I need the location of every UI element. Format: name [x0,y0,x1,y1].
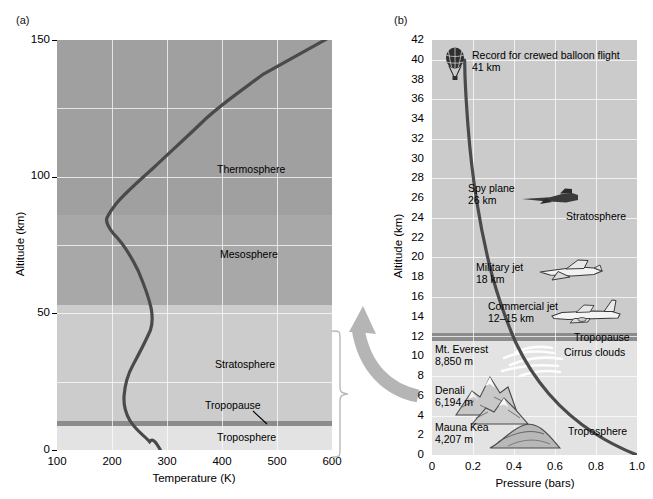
balloon-record-callout: Record for crewed balloon flight 41 km [472,50,620,73]
panel-b-xtick-0.8: 0.8 [576,460,616,472]
mountain-icon [488,412,562,452]
panel-b-plot-area: Record for crewed balloon flight 41 km S… [432,40,637,455]
mauna-kea-callout: Mauna Kea 4,207 m [435,422,489,445]
panel-b-ytick-12: 12 [400,330,424,342]
panel-b-ytick-22: 22 [400,231,424,243]
denali-line2: 6,194 m [435,396,473,408]
spy-plane-line2: 26 km [468,194,497,206]
panel-b-ytick-30: 30 [400,152,424,164]
military-jet-callout: Military jet 18 km [476,262,523,285]
panel-b-ytick-42: 42 [400,33,424,45]
panel-b-ytick-20: 20 [400,250,424,262]
panel-b-ytick-2: 2 [400,428,424,440]
label-b-troposphere: Troposphere [568,425,627,437]
label-b-tropopause: Tropopause [574,331,630,343]
panel-b-ytick-26: 26 [400,191,424,203]
panel-b-ytick-34: 34 [400,112,424,124]
mt-everest-line1: Mt. Everest [435,343,488,355]
mt-everest-callout: Mt. Everest 8,850 m [435,344,488,367]
panel-b-xtick-0.2: 0.2 [453,460,493,472]
mauna-kea-line1: Mauna Kea [435,421,489,433]
panel-a-ytick-50: 50 [10,306,50,318]
panel-b-label: (b) [394,14,407,26]
military-jet-line2: 18 km [476,273,505,285]
denali-callout: Denali 6,194 m [435,385,473,408]
mauna-kea-line2: 4,207 m [435,433,473,445]
panel-b-ytick-24: 24 [400,211,424,223]
panel-a-xtick-500: 500 [257,455,297,467]
panel-b-ytick-4: 4 [400,409,424,421]
balloon-icon [444,47,466,81]
balloon-record-line1: Record for crewed balloon flight [472,49,620,61]
military-jet-icon [536,258,606,284]
spy-plane-icon [520,188,582,208]
denali-line1: Denali [435,384,465,396]
panel-b-ytick-14: 14 [400,310,424,322]
panel-a-plot-area: Thermosphere Mesosphere Stratosphere Tro… [57,40,332,450]
panel-b-ytick-10: 10 [400,349,424,361]
panel-b-x-axis-title: Pressure (bars) [455,477,615,489]
panel-b-xtick-1.0: 1.0 [617,460,653,472]
panel-b-ytick-16: 16 [400,290,424,302]
panel-a-ytickmark [52,450,57,451]
panel-b-xtick-0.4: 0.4 [494,460,534,472]
balloon-record-line2: 41 km [472,61,501,73]
atmosphere-figure: (a) Altitude (km) 150 100 50 0 Thermosph [0,0,653,499]
military-jet-line1: Military jet [476,261,523,273]
panel-b-xtick-0: 0 [412,460,452,472]
panel-b-ytick-28: 28 [400,171,424,183]
panel-a-ytick-150: 150 [10,33,50,45]
commercial-jet-icon [548,298,624,326]
panel-b-ytick-6: 6 [400,389,424,401]
panel-a-y-axis-title: Altitude (km) [14,199,26,289]
panel-a-xtick-100: 100 [37,455,77,467]
panel-b-xtick-0.6: 0.6 [535,460,575,472]
panel-a-label: (a) [16,14,29,26]
panel-a-xtick-400: 400 [202,455,242,467]
panel-b-ytick-8: 8 [400,369,424,381]
panel-a-xtick-200: 200 [92,455,132,467]
panel-b-ytick-38: 38 [400,73,424,85]
panel-a-ytick-100: 100 [10,169,50,181]
panel-b-ytick-36: 36 [400,92,424,104]
mt-everest-line2: 8,850 m [435,355,473,367]
tropopause-leader-line [57,40,332,450]
panel-a-xtick-300: 300 [147,455,187,467]
panel-a-ytick-0: 0 [10,443,50,455]
spy-plane-line1: Spy plane [468,182,515,194]
label-b-stratosphere: Stratosphere [566,210,626,222]
panel-a-x-axis-title: Temperature (K) [104,472,284,484]
panel-b-ytick-40: 40 [400,53,424,65]
commercial-jet-line2: 12–15 km [488,312,534,324]
panel-b-ytick-32: 32 [400,132,424,144]
label-cirrus-clouds: Cirrus clouds [564,346,625,358]
panel-b-ytick-18: 18 [400,270,424,282]
panel-b-ytick-0: 0 [400,448,424,460]
spy-plane-callout: Spy plane 26 km [468,183,515,206]
